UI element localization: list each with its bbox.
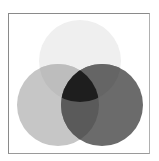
venn-diagram — [0, 0, 159, 161]
